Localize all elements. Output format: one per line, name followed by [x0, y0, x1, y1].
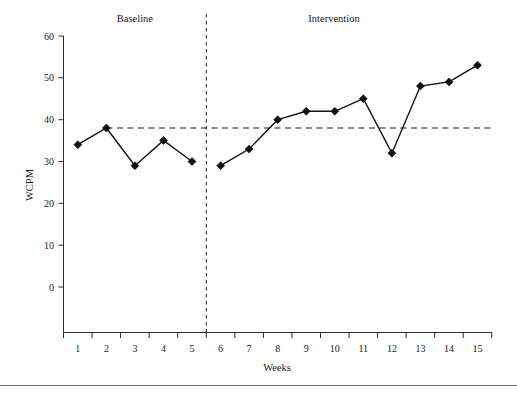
x-tick-label-6: 6 [218, 343, 223, 354]
phase-label-baseline: Baseline [117, 13, 153, 24]
y-tick-label-0: 0 [49, 282, 54, 293]
x-tick-label-10: 10 [330, 343, 340, 354]
chart-figure: 60 50 40 30 20 10 0 WCPM [0, 0, 517, 398]
x-tick-label-3: 3 [132, 343, 137, 354]
x-axis-title: Weeks [263, 362, 291, 373]
x-tick-label-7: 7 [247, 343, 252, 354]
y-axis-title: WCPM [24, 168, 35, 201]
x-tick-label-12: 12 [387, 343, 397, 354]
x-tick-label-5: 5 [190, 343, 195, 354]
y-tick-label-20: 20 [44, 198, 54, 209]
x-tick-label-14: 14 [444, 343, 454, 354]
x-tick-label-13: 13 [415, 343, 425, 354]
x-tick-label-8: 8 [275, 343, 280, 354]
y-tick-label-10: 10 [44, 240, 54, 251]
x-tick-label-2: 2 [104, 343, 109, 354]
x-tick-label-4: 4 [161, 343, 166, 354]
phase-label-intervention: Intervention [308, 13, 360, 24]
y-tick-label-60: 60 [44, 31, 54, 42]
x-tick-label-9: 9 [304, 343, 309, 354]
x-tick-label-15: 15 [473, 343, 483, 354]
y-tick-label-50: 50 [44, 72, 54, 83]
chart-background [0, 0, 517, 398]
wcpm-line-chart: 60 50 40 30 20 10 0 WCPM [0, 0, 517, 398]
y-tick-label-40: 40 [44, 114, 54, 125]
footer-divider [0, 385, 517, 386]
x-tick-label-11: 11 [358, 343, 368, 354]
y-tick-label-30: 30 [44, 156, 54, 167]
x-tick-label-1: 1 [75, 343, 80, 354]
